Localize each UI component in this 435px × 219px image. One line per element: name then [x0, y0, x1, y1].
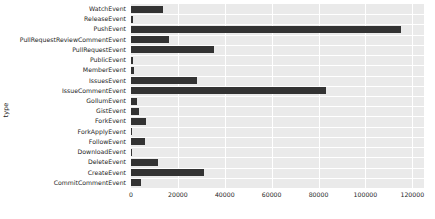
- bar-row: [131, 116, 424, 126]
- y-axis-category-label: CreateEvent: [12, 168, 129, 178]
- y-axis-category-label: PullRequestReviewCommentEvent: [12, 35, 129, 45]
- bar: [131, 98, 137, 105]
- bar-row: [131, 178, 424, 188]
- y-axis-category-label: CommitCommentEvent: [12, 178, 129, 188]
- bar: [131, 46, 214, 53]
- bar: [131, 179, 141, 186]
- bar: [131, 77, 197, 84]
- bar: [131, 169, 204, 176]
- y-axis-category-label: PushEvent: [12, 24, 129, 34]
- y-axis-category-label: PullRequestEvent: [12, 45, 129, 55]
- bar-row: [131, 157, 424, 167]
- bar: [131, 57, 133, 64]
- y-axis-category-label: IssueCommentEvent: [12, 86, 129, 96]
- bar: [131, 149, 132, 156]
- plot-area: [131, 4, 424, 188]
- bar-row: [131, 35, 424, 45]
- bar: [131, 87, 326, 94]
- x-axis-tick-labels: 020000400006000080000100000120000: [131, 188, 424, 210]
- bar: [131, 6, 163, 13]
- bar-row: [131, 65, 424, 75]
- x-axis-tick-label: 20000: [168, 191, 188, 198]
- bar-row: [131, 147, 424, 157]
- bar: [131, 67, 134, 74]
- y-axis-title-text: type: [2, 102, 10, 117]
- y-axis-category-label: WatchEvent: [12, 4, 129, 14]
- x-axis-tick-label: 120000: [400, 191, 424, 198]
- bar: [131, 128, 132, 135]
- x-axis-tick-label: 60000: [262, 191, 282, 198]
- x-axis-tick-label: 0: [129, 191, 133, 198]
- x-axis-tick-label: 40000: [215, 191, 235, 198]
- bar: [131, 16, 133, 23]
- y-axis-category-label: ReleaseEvent: [12, 14, 129, 24]
- x-axis-tick-label: 100000: [354, 191, 378, 198]
- y-axis-category-label: FollowEvent: [12, 137, 129, 147]
- bar-row: [131, 86, 424, 96]
- bar-row: [131, 168, 424, 178]
- y-axis-category-label: ForkEvent: [12, 116, 129, 126]
- bar-row: [131, 4, 424, 14]
- bar-row: [131, 76, 424, 86]
- bar-row: [131, 106, 424, 116]
- bar-row: [131, 14, 424, 24]
- bar-row: [131, 45, 424, 55]
- bar: [131, 159, 158, 166]
- bar: [131, 138, 145, 145]
- y-axis-category-label: MemberEvent: [12, 65, 129, 75]
- x-axis-tick-label: 80000: [309, 191, 329, 198]
- y-axis-title: type: [0, 0, 12, 219]
- y-axis-category-label: DownloadEvent: [12, 147, 129, 157]
- bar-chart-figure: type WatchEventReleaseEventPushEventPull…: [0, 0, 435, 219]
- bar-series: [131, 4, 424, 188]
- bar-row: [131, 55, 424, 65]
- bar: [131, 26, 401, 33]
- y-axis-category-labels: WatchEventReleaseEventPushEventPullReque…: [12, 4, 129, 188]
- bar: [131, 36, 169, 43]
- bar: [131, 118, 146, 125]
- bar-row: [131, 137, 424, 147]
- y-axis-category-label: DeleteEvent: [12, 157, 129, 167]
- y-axis-category-label: GollumEvent: [12, 96, 129, 106]
- bar-row: [131, 96, 424, 106]
- bar: [131, 108, 139, 115]
- y-axis-category-label: IssuesEvent: [12, 76, 129, 86]
- bar-row: [131, 127, 424, 137]
- y-axis-category-label: GistEvent: [12, 106, 129, 116]
- y-axis-category-label: PublicEvent: [12, 55, 129, 65]
- bar-row: [131, 24, 424, 34]
- y-axis-category-label: ForkApplyEvent: [12, 127, 129, 137]
